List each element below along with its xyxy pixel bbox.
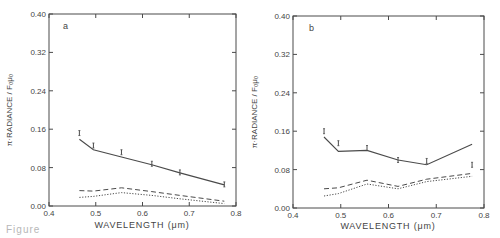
data-series (323, 129, 473, 196)
x-tick-label: 0.6 (383, 211, 395, 220)
x-tick-labels: 0.40.50.60.70.8 (43, 209, 242, 218)
observation-errorbar (120, 150, 122, 155)
x-tick-label: 0.7 (184, 209, 196, 218)
observation-errorbar (471, 162, 473, 167)
panel-label: a (63, 21, 68, 31)
observation-errorbar (323, 129, 325, 134)
observation-errorbar (426, 158, 428, 163)
y-tick-labels: 0.000.080.160.240.320.40 (274, 12, 290, 213)
panel-label: b (309, 23, 314, 33)
observation-errorbar (78, 131, 80, 136)
x-tick-label: 0.8 (230, 209, 242, 218)
y-axis-label: π·RADIANCE / F₀μ₀ (5, 74, 14, 146)
series-line-dashed (79, 188, 224, 201)
x-tick-label: 0.8 (478, 211, 490, 220)
x-tick-label: 0.7 (431, 211, 443, 220)
y-tick-label: 0.08 (30, 164, 46, 173)
x-tick-label: 0.5 (335, 211, 347, 220)
figure-caption-fragment: Figure (6, 224, 40, 235)
x-tick-label: 0.5 (90, 209, 102, 218)
y-tick-label: 0.32 (30, 48, 46, 57)
data-series (78, 131, 225, 204)
y-tick-labels: 0.000.080.160.240.320.40 (30, 10, 46, 211)
y-tick-label: 0.40 (30, 10, 46, 19)
y-axis-label: π·RADIANCE / F₀μ₀ (250, 76, 259, 148)
y-tick-label: 0.24 (274, 89, 290, 98)
y-tick-label: 0.16 (30, 125, 46, 134)
x-tick-labels: 0.40.50.60.70.8 (287, 211, 490, 220)
chart-panel-a: 0.000.080.160.240.320.40 0.40.50.60.70.8… (0, 0, 250, 238)
series-line-dashed (324, 173, 472, 188)
y-tick-label: 0.16 (274, 127, 290, 136)
x-axis-label: WAVELENGTH (μm) (94, 220, 189, 230)
x-tick-label: 0.4 (43, 209, 55, 218)
observation-errorbar (366, 146, 368, 151)
plot-frame (49, 14, 236, 206)
y-tick-label: 0.08 (274, 166, 290, 175)
observation-errorbar (151, 161, 153, 166)
y-tick-label: 0.40 (274, 12, 290, 21)
observation-errorbar (337, 141, 339, 146)
x-tick-label: 0.4 (287, 211, 299, 220)
x-tick-label: 0.6 (137, 209, 149, 218)
observation-errorbar (92, 143, 94, 148)
y-tick-label: 0.24 (30, 87, 46, 96)
y-tick-label: 0.32 (274, 50, 290, 59)
x-axis-label: WAVELENGTH (μm) (340, 221, 435, 231)
plot-frame (293, 16, 484, 208)
chart-panel-b: 0.000.080.160.240.320.40 0.40.50.60.70.8… (250, 0, 500, 238)
